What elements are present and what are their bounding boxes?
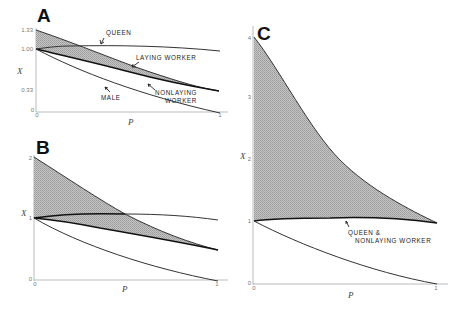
panel-b-shaded-region — [34, 157, 218, 250]
panel-b: B 2 1 0 0 1 X P — [20, 137, 228, 294]
panel-c-ytick-1: 1 — [248, 218, 252, 224]
panel-a-ytick-0.33: 0.33 — [21, 87, 33, 93]
panel-b-ytick-0: 0 — [29, 276, 33, 282]
panel-a-nonlaying-arrow — [148, 84, 155, 90]
panel-b-ytick-1: 1 — [29, 215, 33, 221]
panel-a-nonlaying-label-2: WORKER — [165, 97, 197, 104]
panel-a-male-arrow — [105, 87, 110, 92]
panel-a-laying-worker-arrow — [132, 62, 139, 67]
panel-c-ytick-0: 0 — [248, 280, 252, 286]
panel-a: A 1.33 1.00 0.33 0 0 1 X P QUEEN LAYING … — [16, 5, 228, 127]
panel-a-queen-label: QUEEN — [106, 29, 131, 37]
panel-c-ytick-4: 4 — [248, 35, 252, 41]
panel-a-queen-arrow — [100, 38, 104, 44]
panel-c-xtick-0: 0 — [252, 285, 256, 291]
panel-b-xtick-1: 1 — [215, 281, 219, 287]
panel-a-xtick-1: 1 — [218, 112, 222, 118]
panel-b-y-label: X — [20, 208, 27, 218]
panel-a-x-label: P — [127, 117, 134, 127]
panel-c-queen-arrow — [346, 221, 349, 227]
panel-c-xtick-1: 1 — [434, 285, 438, 291]
panel-a-ytick-1.00: 1.00 — [21, 46, 33, 52]
panel-a-laying-worker-label: LAYING WORKER — [136, 54, 197, 61]
panel-c-male-curve — [254, 221, 437, 284]
panel-a-ytick-0: 0 — [31, 107, 35, 113]
panel-c-shaded-region — [254, 37, 437, 223]
panel-a-male-label: MALE — [101, 94, 121, 101]
panel-b-x-label: P — [121, 284, 128, 294]
panel-a-nonlaying-label-1: NONLAYING — [155, 89, 197, 96]
panel-b-letter: B — [36, 137, 50, 158]
panel-c-y-label: X — [239, 151, 246, 161]
figure: A 1.33 1.00 0.33 0 0 1 X P QUEEN LAYING … — [0, 0, 465, 310]
panel-c-ytick-2: 2 — [248, 156, 252, 162]
panel-c: C 4 3 2 1 0 0 1 X P QUEEN & NONLAYING WO… — [239, 23, 448, 300]
panel-c-x-label: P — [347, 290, 354, 300]
panel-c-queen-label-1: QUEEN & — [348, 229, 381, 237]
panel-b-ytick-2: 2 — [29, 155, 33, 161]
panel-a-ytick-1.33: 1.33 — [21, 27, 33, 33]
panel-a-xtick-0: 0 — [35, 112, 39, 118]
panel-a-y-label: X — [16, 66, 23, 76]
panel-a-letter: A — [37, 5, 51, 26]
panel-b-queen-curve — [125, 214, 218, 220]
panel-c-letter: C — [257, 23, 271, 44]
panel-c-ytick-3: 3 — [248, 94, 252, 100]
panel-b-xtick-0: 0 — [33, 281, 37, 287]
panel-c-queen-label-2: NONLAYING WORKER — [355, 237, 431, 244]
